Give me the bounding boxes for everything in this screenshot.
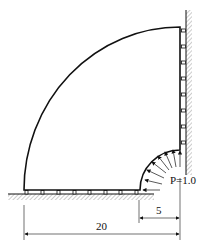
ground-support — [8, 191, 154, 201]
inner-radius-label: 5 — [156, 204, 162, 216]
right-wall-support — [182, 10, 193, 175]
outer-radius-label: 20 — [96, 220, 108, 232]
load-label: P=1.0 — [170, 174, 197, 186]
ground-rollers — [25, 191, 138, 195]
structure-diagram: P=1.0 5 20 — [0, 0, 205, 249]
wall-rollers — [182, 29, 186, 144]
